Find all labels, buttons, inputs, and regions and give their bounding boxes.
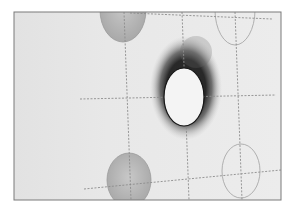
photo-scene — [0, 0, 295, 210]
central-hole — [164, 68, 204, 126]
scorch-plume — [180, 36, 212, 68]
bottom-left-shaded-ellipse — [107, 153, 151, 207]
